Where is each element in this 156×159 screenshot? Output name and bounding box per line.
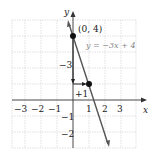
rise-arrowhead-icon [71,79,75,84]
point-label: (0, 4) [78,24,102,34]
y-axis-arrow-icon [71,11,76,17]
svg-text:−1: −1 [48,104,61,114]
svg-text:1: 1 [86,104,92,114]
line-arrow-bottom-icon [106,140,110,147]
y-tick-neg1: −1 [61,112,74,122]
run-label: +1 [75,89,88,99]
svg-text:2: 2 [102,104,108,114]
y-axis-label: y [63,7,70,17]
line-arrow-top-icon [67,20,71,27]
x-axis-label: x [143,105,148,115]
rise-label: −3 [59,60,73,70]
axes [12,14,144,148]
svg-text:3: 3 [117,104,123,114]
svg-text:−3: −3 [14,104,28,114]
point-y-intercept [70,33,76,39]
svg-text:−2: −2 [31,104,44,114]
equation-label: y = −3x + 4 [85,41,136,50]
point-1-1 [86,81,92,87]
y-tick-neg2: −2 [61,129,74,139]
line-graph: x y −3 −2 −1 1 2 3 −1 −2 −3 +1 (0, 4) y … [0,0,156,159]
x-axis-arrow-icon [141,98,147,103]
